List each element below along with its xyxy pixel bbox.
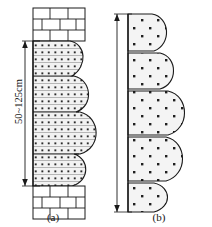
lobe-b-4 (128, 137, 183, 181)
panel-a: 50~125cm (a) (0, 0, 106, 227)
soil-body-b (128, 14, 185, 212)
dimension-label-a: 50~125cm (13, 54, 24, 150)
lobe-b-2 (128, 53, 174, 89)
lobe-b-3 (128, 91, 185, 135)
masonry-cap-a (33, 8, 85, 41)
panel-b: 250~1000cm (b) (106, 0, 212, 227)
lobe-b-5 (128, 183, 168, 212)
lobe-b-1 (128, 14, 167, 51)
soil-body-a (33, 41, 96, 186)
figure-root: 50~125cm (a) (0, 0, 212, 227)
caption-a: (a) (0, 211, 106, 223)
panel-b-drawing (106, 0, 212, 227)
caption-b: (b) (106, 211, 212, 223)
